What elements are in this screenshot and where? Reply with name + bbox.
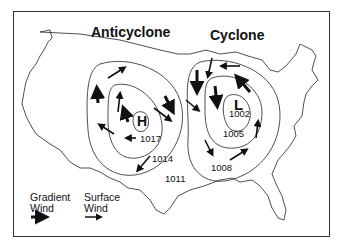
isobar-1008 — [187, 60, 280, 181]
isobar-label-1005: 1005 — [223, 128, 244, 139]
isobar-label-1002: 1002 — [229, 108, 250, 119]
isobar-label-1014: 1014 — [152, 153, 173, 164]
high-pressure-symbol: H — [137, 113, 147, 129]
cyclone-title: Cyclone — [210, 27, 264, 43]
anticyclone-title: Anticyclone — [91, 24, 170, 40]
legend-surface-wind-label: Surface Wind — [84, 192, 120, 214]
isobar-label-1011: 1011 — [165, 173, 185, 184]
isobar-label-1017: 1017 — [140, 133, 161, 144]
isobar-label-1008: 1008 — [211, 162, 232, 173]
legend-gradient-wind-label: Gradient Wind — [30, 192, 70, 214]
isobar-1014 — [108, 84, 162, 158]
